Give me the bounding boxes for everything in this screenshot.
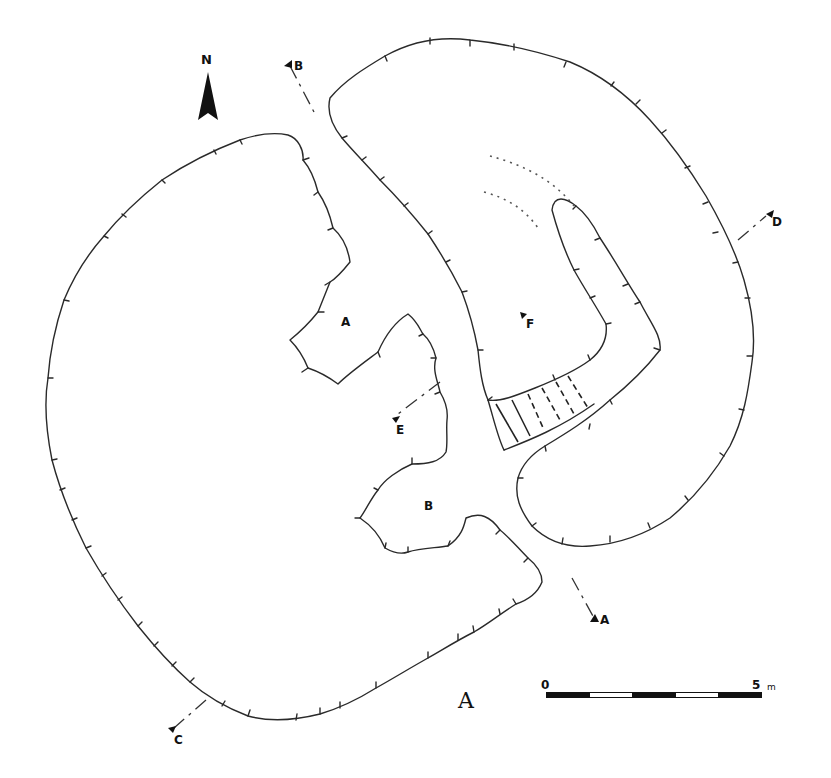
section-label-c: C xyxy=(174,734,183,746)
section-label-d: D xyxy=(772,216,782,228)
east-enclosure-outline xyxy=(329,38,754,546)
section-label-e: E xyxy=(396,424,404,436)
marker-c-icon xyxy=(168,726,176,733)
dotted-arcs xyxy=(484,156,574,228)
scale-start-label: 0 xyxy=(541,678,549,692)
area-label-b: B xyxy=(424,500,433,512)
west-enclosure-outline xyxy=(46,134,542,720)
north-label: N xyxy=(201,52,212,67)
site-plan xyxy=(0,0,831,778)
marker-b-icon xyxy=(284,60,292,68)
marker-e-icon xyxy=(392,416,400,423)
scale-bar xyxy=(546,692,762,698)
scale-unit-label: m xyxy=(767,682,776,692)
figure-label: A xyxy=(458,690,474,712)
steps xyxy=(496,376,594,450)
section-label-b: B xyxy=(294,60,303,72)
marker-a-icon xyxy=(590,614,599,622)
area-label-a: A xyxy=(341,316,350,328)
section-label-f: F xyxy=(526,318,534,330)
section-lines xyxy=(174,66,766,728)
north-arrow-icon xyxy=(198,72,218,120)
scale-end-label: 5 xyxy=(752,678,760,692)
section-label-a: A xyxy=(600,614,609,626)
